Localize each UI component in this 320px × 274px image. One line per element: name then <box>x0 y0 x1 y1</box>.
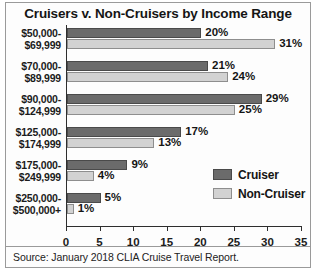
bar-track: 20% <box>67 28 302 38</box>
category-label: $70,000-$89,999 <box>7 61 61 84</box>
category-label-line2: $69,999 <box>7 40 61 52</box>
category-label-line2: $174,999 <box>7 139 61 151</box>
category-label: $125,000-$174,999 <box>7 127 61 150</box>
bar-value-label: 5% <box>105 191 122 203</box>
x-tick-mark <box>234 227 235 231</box>
bar-non-cruiser <box>67 204 74 214</box>
bar-track: 31% <box>67 39 302 49</box>
source-caption: Source: January 2018 CLIA Cruise Travel … <box>13 251 239 263</box>
bar-track: 17% <box>67 127 302 137</box>
bar-value-label: 4% <box>98 169 115 181</box>
chart-legend: Cruiser Non-Cruiser <box>213 166 305 204</box>
category-label-line2: $500,000+ <box>7 205 61 217</box>
bar-value-label: 13% <box>158 136 181 148</box>
source-divider <box>6 246 310 247</box>
bar-track: 25% <box>67 105 302 115</box>
x-tick-mark <box>133 227 134 231</box>
bar-value-label: 17% <box>185 125 208 137</box>
category-label-line1: $90,000- <box>7 94 61 106</box>
category-label-line1: $250,000- <box>7 193 61 205</box>
category-label-line1: $70,000- <box>7 61 61 73</box>
category-label: $250,000-$500,000+ <box>7 193 61 216</box>
category-label-line2: $124,999 <box>7 106 61 118</box>
x-tick-mark <box>100 227 101 231</box>
bar-group: $90,000-$124,99929%25% <box>7 94 302 124</box>
bar-track: 1% <box>67 204 302 214</box>
bar-non-cruiser <box>67 105 235 115</box>
bar-non-cruiser <box>67 39 275 49</box>
category-label-line1: $125,000- <box>7 127 61 139</box>
category-label-line1: $50,000- <box>7 28 61 40</box>
bar-group: $50,000-$69,99920%31% <box>7 28 302 58</box>
bar-cruiser <box>67 94 262 104</box>
category-label: $90,000-$124,999 <box>7 94 61 117</box>
category-label: $50,000-$69,999 <box>7 28 61 51</box>
legend-swatch-non-cruiser <box>213 188 232 199</box>
legend-label-cruiser: Cruiser <box>238 168 279 182</box>
bar-value-label: 9% <box>131 158 148 170</box>
x-tick-mark <box>301 227 302 231</box>
bar-non-cruiser <box>67 138 154 148</box>
bar-value-label: 31% <box>279 37 302 49</box>
bar-track: 13% <box>67 138 302 148</box>
bar-non-cruiser <box>67 171 94 181</box>
chart-title: Cruisers v. Non-Cruisers by Income Range <box>6 6 310 21</box>
legend-swatch-cruiser <box>213 169 232 180</box>
legend-item-non-cruiser: Non-Cruiser <box>213 185 305 202</box>
bar-non-cruiser <box>67 72 228 82</box>
chart-figure: Cruisers v. Non-Cruisers by Income Range… <box>5 2 311 268</box>
bar-value-label: 20% <box>205 26 228 38</box>
bar-group: $125,000-$174,99917%13% <box>7 127 302 157</box>
bar-track: 21% <box>67 61 302 71</box>
bar-track: 29% <box>67 94 302 104</box>
legend-label-non-cruiser: Non-Cruiser <box>238 187 305 201</box>
bar-group: $70,000-$89,99921%24% <box>7 61 302 91</box>
x-tick-mark <box>66 227 67 231</box>
category-label-line2: $249,999 <box>7 172 61 184</box>
bar-value-label: 24% <box>232 70 255 82</box>
category-label-line1: $175,000- <box>7 160 61 172</box>
legend-item-cruiser: Cruiser <box>213 166 305 183</box>
bar-value-label: 1% <box>78 202 95 214</box>
bar-cruiser <box>67 28 201 38</box>
bar-track: 24% <box>67 72 302 82</box>
bar-value-label: 29% <box>266 92 289 104</box>
x-tick-mark <box>167 227 168 231</box>
x-tick-mark <box>267 227 268 231</box>
category-label-line2: $89,999 <box>7 73 61 85</box>
category-label: $175,000-$249,999 <box>7 160 61 183</box>
bar-value-label: 25% <box>239 103 262 115</box>
bar-cruiser <box>67 61 208 71</box>
x-tick-mark <box>200 227 201 231</box>
